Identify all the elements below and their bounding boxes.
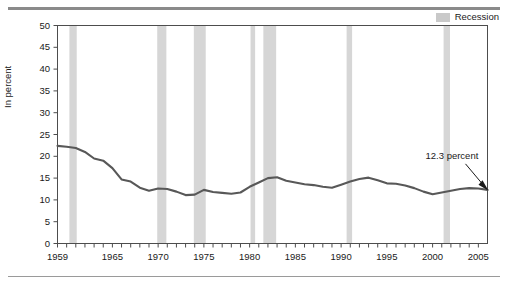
final-value-annotation: 12.3 percent bbox=[426, 151, 479, 161]
y-axis-tick-label: 45 bbox=[30, 42, 50, 51]
y-axis-tick-label: 40 bbox=[30, 64, 50, 73]
recession-band bbox=[194, 26, 206, 244]
bottom-divider-rule bbox=[8, 276, 500, 277]
x-axis-tick-label: 1959 bbox=[47, 252, 68, 262]
y-axis-tick-label: 30 bbox=[30, 108, 50, 117]
recession-band bbox=[263, 26, 276, 244]
x-axis-tick-label: 1975 bbox=[193, 252, 214, 262]
recession-legend-swatch bbox=[436, 13, 450, 22]
y-axis-tick-label: 35 bbox=[30, 86, 50, 95]
y-axis-tick-label: 25 bbox=[30, 130, 50, 139]
chart-figure: Recession In percent 0510152025303540455… bbox=[0, 0, 508, 286]
recession-band bbox=[347, 26, 352, 244]
recession-band bbox=[157, 26, 166, 244]
x-axis-tick-label: 2000 bbox=[422, 252, 443, 262]
recession-band bbox=[251, 26, 256, 244]
x-axis-tick-label: 1985 bbox=[285, 252, 306, 262]
x-axis-tick-label: 2005 bbox=[468, 252, 489, 262]
y-axis-title: In percent bbox=[2, 66, 13, 108]
y-axis-tick-label: 5 bbox=[30, 217, 50, 226]
x-axis-tick-label: 1980 bbox=[239, 252, 260, 262]
y-axis-tick-label: 50 bbox=[30, 21, 50, 30]
y-axis-tick-label: 15 bbox=[30, 173, 50, 182]
y-axis-tick-label: 20 bbox=[30, 151, 50, 160]
x-axis-tick-label: 1995 bbox=[376, 252, 397, 262]
y-axis-tick-label: 0 bbox=[30, 239, 50, 248]
y-axis-tick-labels: 05101520253035404550 bbox=[28, 0, 50, 286]
recession-legend-label: Recession bbox=[455, 12, 499, 22]
x-axis-tick-label: 1970 bbox=[148, 252, 169, 262]
top-divider-rule bbox=[8, 7, 500, 10]
y-axis-tick-label: 10 bbox=[30, 195, 50, 204]
x-axis-tick-label: 1990 bbox=[331, 252, 352, 262]
chart-legend: Recession bbox=[436, 12, 499, 22]
recession-band bbox=[444, 26, 450, 244]
x-axis-tick-label: 1965 bbox=[102, 252, 123, 262]
recession-band bbox=[69, 26, 76, 244]
plot-area bbox=[0, 0, 508, 286]
